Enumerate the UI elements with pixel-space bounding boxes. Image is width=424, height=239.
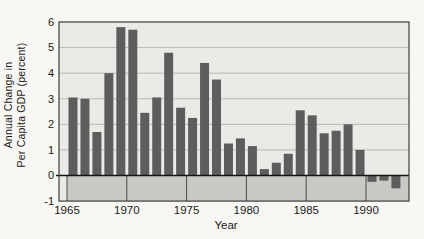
bar [152,97,161,175]
x-axis-title: Year [214,219,237,231]
bar [272,163,281,176]
y-axis-title-line2: Per Capita GDP (percent) [15,15,28,195]
y-axis-title-line1: Annual Change in [2,15,15,195]
y-tick-label: 6 [48,16,54,28]
bar [356,150,365,176]
y-tick-label: 2 [48,118,54,130]
bar [164,53,173,176]
bar [308,115,317,175]
bar [69,97,78,175]
below-zero-band [67,176,409,202]
y-tick-label: 5 [48,41,54,53]
bar [236,138,245,175]
y-tick-label: 0 [48,169,54,181]
y-tick-label: 4 [48,67,54,79]
bar [260,169,269,175]
x-tick-label: 1985 [293,204,319,216]
y-axis-title: Annual Change in Per Capita GDP (percent… [1,15,29,195]
bar [320,133,329,175]
bar [248,146,257,175]
bar [368,176,377,182]
x-tick-label: 1970 [114,204,140,216]
bar [188,118,197,176]
bar [284,154,293,176]
bar [176,108,185,176]
y-tick-label: 1 [48,144,54,156]
x-tick-label: 1990 [353,204,379,216]
y-tick-label: 3 [48,93,54,105]
bar [128,30,137,176]
bar [296,110,305,175]
bar [92,132,101,175]
x-tick-label: 1975 [174,204,200,216]
bar [80,99,89,176]
bar [212,80,221,176]
bar [116,27,125,175]
x-tick-label: 1980 [234,204,260,216]
x-tick-label: 1965 [54,204,80,216]
bar [200,63,209,176]
chart-plot-area: 6543210-1196519701975198019851990 [0,0,424,239]
bar [344,124,353,175]
y-tick-label: -1 [44,195,54,207]
bar [391,176,400,189]
gdp-bar-chart: 6543210-1196519701975198019851990 Annual… [0,0,424,239]
bar [104,73,113,175]
bar [224,144,233,176]
bar [140,113,149,176]
bar [332,131,341,176]
